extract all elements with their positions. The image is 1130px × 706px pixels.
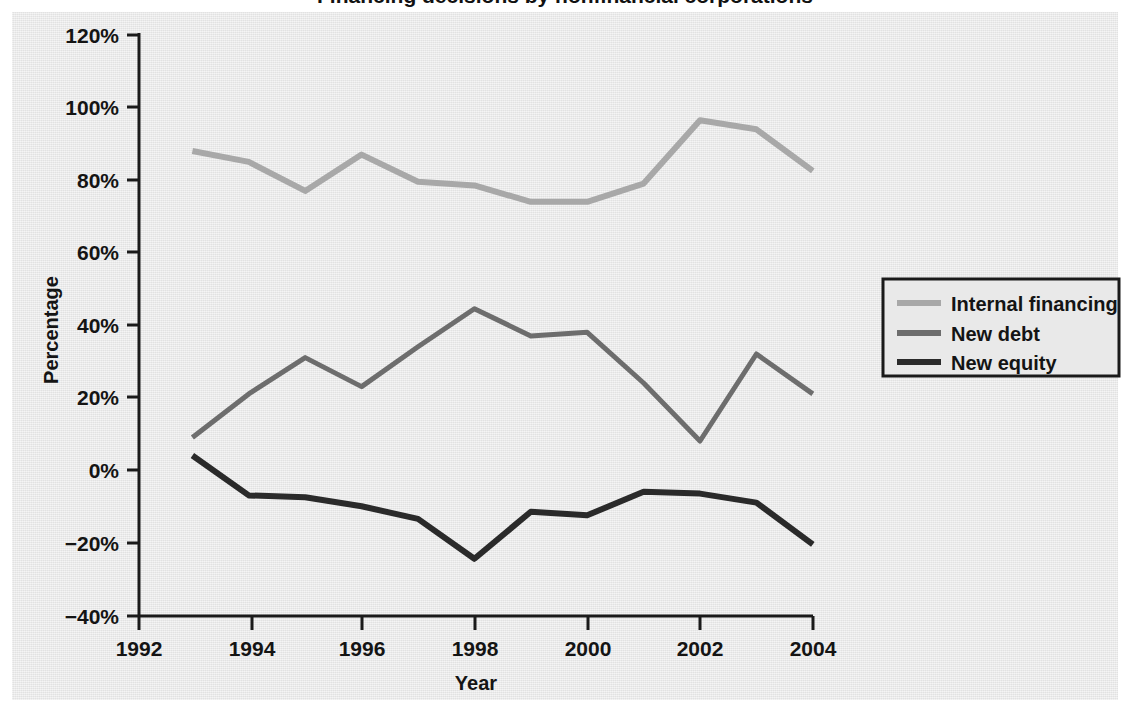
axis-x: 1992 1994 1996 1998 2000 2002 2004 Year (116, 616, 837, 694)
x-tick-label: 2004 (790, 637, 837, 660)
x-tick-label: 2002 (677, 637, 724, 660)
x-tick-label: 1994 (229, 637, 276, 660)
legend-item-label: Internal financing (951, 293, 1118, 315)
x-tick-label: 1996 (339, 637, 386, 660)
x-tick-label: 1998 (452, 637, 499, 660)
figure-page: Financing decisions by nonfinancial corp… (0, 0, 1130, 706)
legend: Internal financing New debt New equity (883, 279, 1119, 376)
y-tick-label: 100% (65, 96, 119, 119)
x-tick-marks (139, 616, 813, 630)
y-tick-label: 60% (77, 241, 119, 264)
legend-item-label: New equity (951, 352, 1057, 374)
legend-item-label: New debt (951, 323, 1040, 345)
y-tick-label: 0% (89, 459, 120, 482)
x-tick-labels: 1992 1994 1996 1998 2000 2002 2004 (116, 637, 837, 660)
y-tick-label: 20% (77, 386, 119, 409)
axis-y: 120% 100% 80% 60% 40% 20% 0% −20% −40% P… (40, 24, 139, 628)
y-tick-marks (127, 35, 139, 616)
series-line-internal-financing (192, 120, 812, 202)
y-tick-label: 80% (77, 169, 119, 192)
y-tick-labels: 120% 100% 80% 60% 40% 20% 0% −20% −40% (65, 24, 120, 628)
series-line-new-equity (192, 456, 812, 559)
x-tick-label: 2000 (565, 637, 612, 660)
series-layer (192, 120, 812, 559)
x-axis-title: Year (455, 672, 497, 694)
series-line-new-debt (192, 309, 812, 441)
y-tick-label: 40% (77, 314, 119, 337)
y-tick-label: 120% (65, 24, 119, 47)
x-tick-label: 1992 (116, 637, 163, 660)
y-tick-label: −20% (65, 532, 120, 555)
y-tick-label: −40% (65, 605, 120, 628)
line-chart: 120% 100% 80% 60% 40% 20% 0% −20% −40% P… (0, 0, 1130, 706)
y-axis-title: Percentage (40, 276, 62, 384)
